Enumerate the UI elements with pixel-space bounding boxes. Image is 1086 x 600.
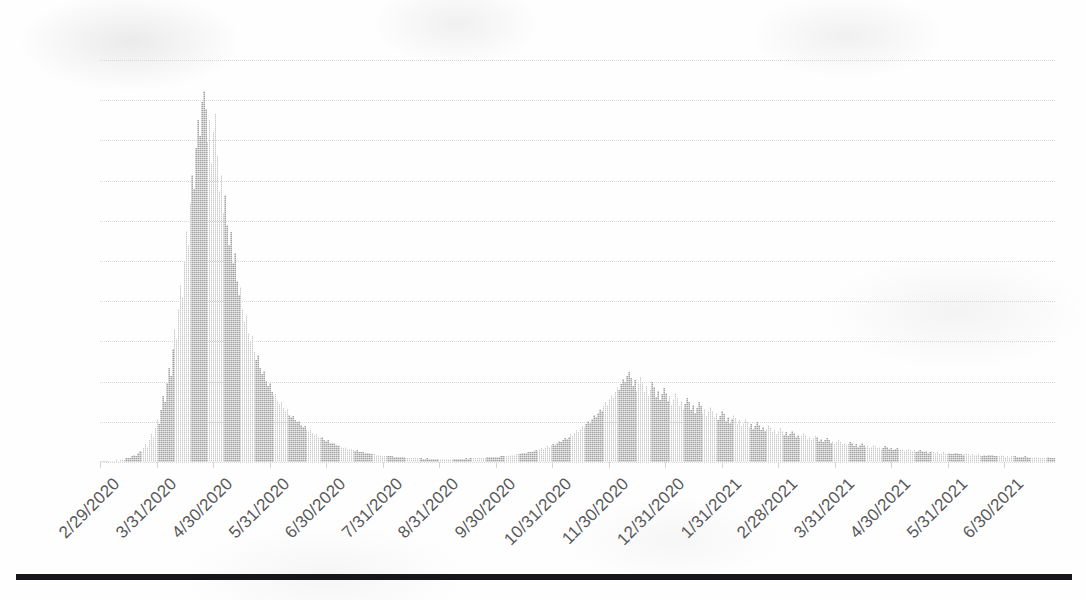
x-axis-tick <box>213 462 214 468</box>
x-axis-tick <box>778 462 779 468</box>
x-axis-tick <box>1004 462 1005 468</box>
x-axis-tick <box>835 462 836 468</box>
x-axis-tick-label: 6/30/2021 <box>959 474 1028 543</box>
x-axis-tick-label: 4/30/2021 <box>846 474 915 543</box>
bottom-rule <box>16 574 1072 580</box>
bar-chart-figure: 2/29/20203/31/20204/30/20205/31/20206/30… <box>0 0 1086 600</box>
gridline <box>100 462 1055 463</box>
x-axis-tick-label: 1/31/2021 <box>677 474 746 543</box>
bar <box>1053 458 1055 462</box>
bar-series <box>100 60 1055 462</box>
x-axis-tick-label: 3/31/2021 <box>790 474 859 543</box>
x-axis-tick-label: 5/31/2020 <box>225 474 294 543</box>
x-axis-tick <box>722 462 723 468</box>
x-axis-tick <box>100 462 101 468</box>
x-axis-tick-label: 2/28/2021 <box>733 474 802 543</box>
x-axis-tick-label: 7/31/2020 <box>338 474 407 543</box>
x-axis-tick <box>948 462 949 468</box>
x-axis-tick <box>383 462 384 468</box>
x-axis-tick <box>552 462 553 468</box>
x-axis-tick-label: 8/31/2020 <box>394 474 463 543</box>
x-axis-tick <box>326 462 327 468</box>
x-axis-tick <box>496 462 497 468</box>
x-axis-tick <box>439 462 440 468</box>
x-axis-tick-label: 6/30/2020 <box>281 474 350 543</box>
x-axis-tick <box>609 462 610 468</box>
x-axis-tick <box>665 462 666 468</box>
x-axis-tick-label: 5/31/2021 <box>903 474 972 543</box>
x-axis-tick <box>891 462 892 468</box>
x-axis-tick <box>157 462 158 468</box>
x-axis-tick <box>270 462 271 468</box>
plot-area <box>100 60 1055 462</box>
x-axis-tick-label: 3/31/2020 <box>112 474 181 543</box>
x-axis-tick-label: 2/29/2020 <box>55 474 124 543</box>
x-axis-tick-label: 4/30/2020 <box>168 474 237 543</box>
